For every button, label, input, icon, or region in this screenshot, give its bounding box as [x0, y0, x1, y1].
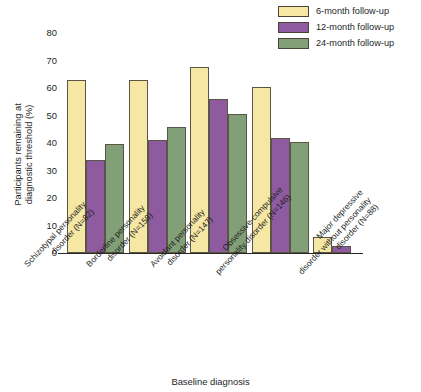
- legend-label-6-month: 6-month follow-up: [316, 6, 389, 17]
- legend-swatch-12-month: [278, 22, 309, 33]
- bar: [290, 142, 309, 253]
- legend-item-6-month: 6-month follow-up: [278, 4, 418, 19]
- legend-label-12-month: 12-month follow-up: [316, 22, 394, 33]
- y-axis-ticks: 01020304050607080: [33, 0, 57, 392]
- legend-swatch-6-month: [278, 6, 309, 17]
- y-axis-tick-label: 40: [35, 138, 57, 148]
- y-axis-tick-label: 20: [35, 193, 57, 203]
- y-axis-title-line-1: Participants remaining at: [13, 64, 24, 244]
- y-axis-title: Participants remaining at diagnostic thr…: [13, 64, 36, 244]
- y-axis-tick-label: 50: [35, 111, 57, 121]
- bar: [209, 99, 228, 253]
- x-axis-title: Baseline diagnosis: [0, 376, 421, 387]
- y-axis-tick-label: 30: [35, 166, 57, 176]
- bar: [148, 140, 167, 253]
- y-axis-tick-label: 60: [35, 83, 57, 93]
- y-axis-tick-label: 80: [35, 28, 57, 38]
- y-axis-tick-label: 70: [35, 56, 57, 66]
- chart-figure: 6-month follow-up 12-month follow-up 24-…: [0, 0, 421, 392]
